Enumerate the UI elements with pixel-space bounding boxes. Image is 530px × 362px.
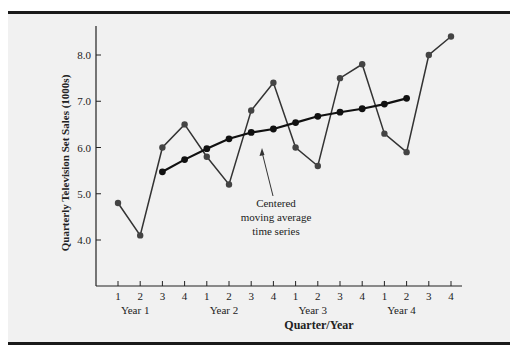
arrow-head-icon xyxy=(260,148,265,156)
moving-average-point xyxy=(181,156,188,163)
moving-average-point xyxy=(337,109,344,116)
x-tick-label: 3 xyxy=(160,290,166,302)
moving-average-point xyxy=(226,135,233,142)
annotation-text: moving average xyxy=(241,211,312,223)
y-axis-ticks: 4.05.06.07.08.0 xyxy=(77,49,101,246)
x-tick-label: 1 xyxy=(382,290,388,302)
x-tick-label: 1 xyxy=(293,290,299,302)
x-tick-label: 1 xyxy=(115,290,121,302)
moving-average-point xyxy=(403,95,410,102)
moving-average-point xyxy=(359,105,366,112)
x-tick-label: 3 xyxy=(248,290,254,302)
sales-point xyxy=(381,130,387,136)
moving-average-line xyxy=(162,98,406,171)
x-tick-label: 4 xyxy=(271,290,277,302)
moving-average-point xyxy=(203,145,210,152)
y-tick-label: 5.0 xyxy=(77,188,91,200)
year-label: Year 4 xyxy=(387,304,416,316)
moving-average-point xyxy=(270,126,277,133)
x-tick-label: 2 xyxy=(315,290,321,302)
moving-average-series xyxy=(159,95,410,175)
sales-point xyxy=(292,144,298,150)
chart-figure: 4.05.06.07.08.0 1234123412341234Year 1Ye… xyxy=(0,0,530,362)
x-tick-label: 1 xyxy=(204,290,210,302)
x-tick-label: 4 xyxy=(182,290,188,302)
moving-average-point xyxy=(292,119,299,126)
year-label: Year 3 xyxy=(298,304,327,316)
sales-point xyxy=(181,121,187,127)
x-tick-label: 2 xyxy=(404,290,410,302)
moving-average-point xyxy=(381,101,388,108)
moving-average-point xyxy=(248,129,255,136)
line-chart: 4.05.06.07.08.0 1234123412341234Year 1Ye… xyxy=(0,0,530,362)
annotation-arrow xyxy=(262,152,273,196)
sales-point xyxy=(403,149,409,155)
x-tick-label: 3 xyxy=(426,290,432,302)
y-tick-label: 8.0 xyxy=(77,49,91,61)
moving-average-point xyxy=(314,113,321,120)
y-tick-label: 6.0 xyxy=(77,142,91,154)
sales-point xyxy=(315,163,321,169)
sales-point xyxy=(359,61,365,67)
y-tick-label: 7.0 xyxy=(77,95,91,107)
sales-point xyxy=(159,144,165,150)
sales-point xyxy=(426,52,432,58)
year-label: Year 2 xyxy=(210,304,239,316)
x-tick-label: 4 xyxy=(448,290,454,302)
sales-point xyxy=(248,107,254,113)
sales-point xyxy=(448,33,454,39)
moving-average-point xyxy=(159,168,166,175)
sales-point xyxy=(226,181,232,187)
x-tick-label: 3 xyxy=(337,290,343,302)
sales-point xyxy=(270,80,276,86)
annotation: Centeredmoving averagetime series xyxy=(241,148,312,237)
x-axis-label: Quarter/Year xyxy=(284,318,354,332)
x-tick-label: 4 xyxy=(359,290,365,302)
year-label: Year 1 xyxy=(121,304,150,316)
sales-point xyxy=(137,232,143,238)
x-tick-label: 2 xyxy=(226,290,232,302)
annotation-text: time series xyxy=(252,225,299,237)
y-axis-label: Quarterly Television Set Sales (1000s) xyxy=(59,74,72,251)
x-tick-label: 2 xyxy=(137,290,143,302)
axes xyxy=(96,26,462,286)
sales-point xyxy=(115,200,121,206)
sales-point xyxy=(337,75,343,81)
y-tick-label: 4.0 xyxy=(77,234,91,246)
annotation-text: Centered xyxy=(256,197,296,209)
sales-point xyxy=(204,154,210,160)
